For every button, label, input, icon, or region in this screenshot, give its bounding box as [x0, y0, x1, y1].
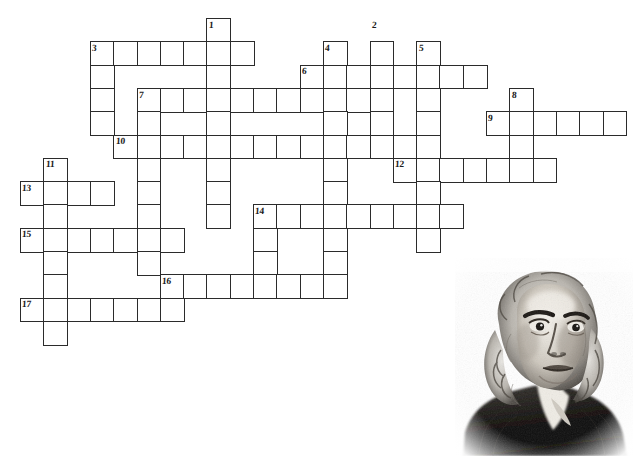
crossword-cell[interactable]	[323, 181, 348, 206]
crossword-cell[interactable]	[533, 158, 558, 183]
crossword-cell[interactable]	[463, 158, 488, 183]
crossword-cell[interactable]	[206, 88, 231, 113]
crossword-cell[interactable]	[416, 135, 441, 160]
crossword-cell[interactable]	[486, 111, 511, 136]
crossword-cell[interactable]	[370, 41, 395, 66]
crossword-cell[interactable]	[90, 181, 115, 206]
crossword-cell[interactable]	[323, 204, 348, 229]
crossword-cell[interactable]	[43, 321, 68, 346]
crossword-cell[interactable]	[43, 251, 68, 276]
crossword-cell[interactable]	[323, 158, 348, 183]
crossword-cell[interactable]	[253, 204, 278, 229]
crossword-cell[interactable]	[183, 274, 208, 299]
crossword-cell[interactable]	[113, 41, 138, 66]
crossword-cell[interactable]	[253, 274, 278, 299]
crossword-cell[interactable]	[253, 228, 278, 253]
crossword-cell[interactable]	[160, 41, 185, 66]
crossword-cell[interactable]	[43, 204, 68, 229]
crossword-cell[interactable]	[253, 88, 278, 113]
crossword-cell[interactable]	[509, 135, 534, 160]
crossword-cell[interactable]	[206, 41, 231, 66]
crossword-cell[interactable]	[486, 158, 511, 183]
crossword-cell[interactable]	[509, 88, 534, 113]
crossword-cell[interactable]	[67, 181, 92, 206]
crossword-cell[interactable]	[276, 88, 301, 113]
crossword-cell[interactable]	[300, 88, 325, 113]
crossword-cell[interactable]	[579, 111, 604, 136]
crossword-cell[interactable]	[346, 135, 371, 160]
crossword-cell[interactable]	[206, 18, 231, 43]
crossword-cell[interactable]	[323, 88, 348, 113]
crossword-cell[interactable]	[393, 158, 418, 183]
crossword-cell[interactable]	[416, 65, 441, 90]
crossword-cell[interactable]	[416, 228, 441, 253]
crossword-cell[interactable]	[113, 135, 138, 160]
crossword-cell[interactable]	[300, 274, 325, 299]
crossword-cell[interactable]	[230, 88, 255, 113]
crossword-cell[interactable]	[416, 88, 441, 113]
crossword-cell[interactable]	[43, 298, 68, 323]
crossword-cell[interactable]	[346, 204, 371, 229]
crossword-cell[interactable]	[206, 158, 231, 183]
crossword-cell[interactable]	[439, 65, 464, 90]
crossword-cell[interactable]	[323, 228, 348, 253]
crossword-cell[interactable]	[137, 158, 162, 183]
crossword-cell[interactable]	[183, 41, 208, 66]
crossword-cell[interactable]	[230, 135, 255, 160]
crossword-cell[interactable]	[323, 41, 348, 66]
crossword-cell[interactable]	[370, 88, 395, 113]
crossword-cell[interactable]	[90, 228, 115, 253]
crossword-cell[interactable]	[370, 135, 395, 160]
crossword-cell[interactable]	[206, 274, 231, 299]
crossword-cell[interactable]	[206, 204, 231, 229]
crossword-cell[interactable]	[276, 204, 301, 229]
crossword-cell[interactable]	[206, 111, 231, 136]
crossword-cell[interactable]	[160, 135, 185, 160]
crossword-cell[interactable]	[300, 65, 325, 90]
crossword-cell[interactable]	[346, 65, 371, 90]
crossword-cell[interactable]	[463, 65, 488, 90]
crossword-cell[interactable]	[370, 65, 395, 90]
crossword-cell[interactable]	[90, 298, 115, 323]
crossword-cell[interactable]	[556, 111, 581, 136]
crossword-cell[interactable]	[416, 158, 441, 183]
crossword-cell[interactable]	[90, 41, 115, 66]
crossword-cell[interactable]	[137, 88, 162, 113]
crossword-cell[interactable]	[206, 181, 231, 206]
crossword-cell[interactable]	[230, 274, 255, 299]
crossword-cell[interactable]	[276, 274, 301, 299]
crossword-cell[interactable]	[160, 274, 185, 299]
crossword-cell[interactable]	[137, 204, 162, 229]
crossword-cell[interactable]	[43, 274, 68, 299]
crossword-cell[interactable]	[323, 65, 348, 90]
crossword-cell[interactable]	[416, 181, 441, 206]
crossword-cell[interactable]	[90, 88, 115, 113]
crossword-cell[interactable]	[20, 228, 45, 253]
crossword-cell[interactable]	[300, 204, 325, 229]
crossword-cell[interactable]	[160, 298, 185, 323]
crossword-cell[interactable]	[43, 158, 68, 183]
crossword-cell[interactable]	[509, 111, 534, 136]
crossword-cell[interactable]	[393, 204, 418, 229]
crossword-cell[interactable]	[137, 298, 162, 323]
crossword-cell[interactable]	[416, 204, 441, 229]
crossword-cell[interactable]	[393, 135, 418, 160]
crossword-cell[interactable]	[137, 41, 162, 66]
crossword-cell[interactable]	[67, 228, 92, 253]
crossword-cell[interactable]	[416, 111, 441, 136]
crossword-cell[interactable]	[113, 298, 138, 323]
crossword-cell[interactable]	[113, 228, 138, 253]
crossword-cell[interactable]	[276, 135, 301, 160]
crossword-cell[interactable]	[323, 111, 348, 136]
crossword-cell[interactable]	[253, 135, 278, 160]
crossword-cell[interactable]	[323, 135, 348, 160]
crossword-cell[interactable]	[323, 274, 348, 299]
crossword-cell[interactable]	[393, 65, 418, 90]
crossword-cell[interactable]	[90, 111, 115, 136]
crossword-cell[interactable]	[20, 181, 45, 206]
crossword-cell[interactable]	[137, 135, 162, 160]
crossword-cell[interactable]	[137, 181, 162, 206]
crossword-cell[interactable]	[439, 204, 464, 229]
crossword-cell[interactable]	[137, 251, 162, 276]
crossword-cell[interactable]	[43, 228, 68, 253]
